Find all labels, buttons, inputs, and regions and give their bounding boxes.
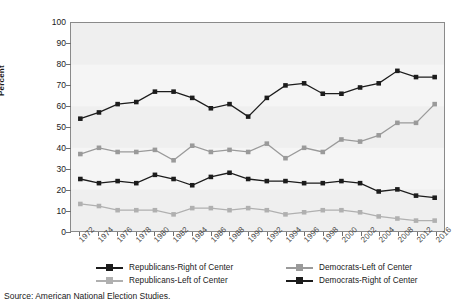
legend-swatch-icon <box>286 262 313 273</box>
x-tick-mark <box>436 232 437 236</box>
legend-item[interactable]: Republicans-Left of Center <box>96 274 286 287</box>
x-tick-mark <box>398 232 399 236</box>
legend-row: Republicans-Right of CenterDemocrats-Lef… <box>96 261 436 274</box>
legend-swatch-icon <box>286 275 313 286</box>
x-tick-mark <box>342 232 343 236</box>
x-tick-mark <box>248 232 249 236</box>
legend-label: Democrats-Right of Center <box>319 276 418 285</box>
legend-label: Republicans-Right of Center <box>129 263 233 272</box>
y-tick-mark <box>66 106 71 107</box>
x-tick-mark <box>304 232 305 236</box>
legend-label: Democrats-Left of Center <box>319 263 412 272</box>
y-tick-mark <box>66 211 71 212</box>
x-tick-mark <box>173 232 174 236</box>
legend-swatch-icon <box>96 275 123 286</box>
x-tick-mark <box>136 232 137 236</box>
x-tick-mark <box>98 232 99 236</box>
y-tick-mark <box>66 85 71 86</box>
y-tick-mark <box>66 148 71 149</box>
y-tick-mark <box>66 232 71 233</box>
x-tick-mark <box>267 232 268 236</box>
x-tick-mark <box>379 232 380 236</box>
y-tick-mark <box>66 127 71 128</box>
legend-item[interactable]: Democrats-Right of Center <box>286 274 418 287</box>
x-tick-mark <box>417 232 418 236</box>
source-note: Source: American National Election Studi… <box>4 291 170 301</box>
x-tick-mark <box>211 232 212 236</box>
legend-row: Republicans-Left of CenterDemocrats-Righ… <box>96 274 436 287</box>
x-tick-mark <box>192 232 193 236</box>
x-tick-mark <box>117 232 118 236</box>
legend-swatch-icon <box>96 262 123 273</box>
x-tick-mark <box>323 232 324 236</box>
y-tick-mark <box>66 169 71 170</box>
x-tick-mark <box>286 232 287 236</box>
y-tick-mark <box>66 190 71 191</box>
legend-label: Republicans-Left of Center <box>129 276 228 285</box>
y-tick-mark <box>66 64 71 65</box>
y-tick-mark <box>66 43 71 44</box>
legend: Republicans-Right of CenterDemocrats-Lef… <box>96 261 436 288</box>
legend-item[interactable]: Democrats-Left of Center <box>286 261 412 274</box>
x-tick-mark <box>361 232 362 236</box>
x-tick-mark <box>229 232 230 236</box>
legend-item[interactable]: Republicans-Right of Center <box>96 261 286 274</box>
figure-container: Percent 0102030405060708090100 197219741… <box>0 0 458 307</box>
x-tick-mark <box>79 232 80 236</box>
x-tick-mark <box>154 232 155 236</box>
